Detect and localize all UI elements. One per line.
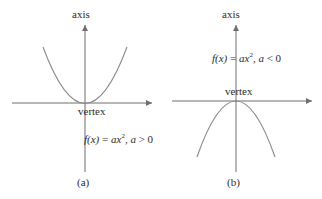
panel-a-graphic [0,0,161,199]
formula-function-a: f(x) [84,133,99,145]
formula-label-a: f(x) = ax2, a > 0 [84,134,153,145]
axis-label-a: axis [72,9,90,20]
axis-label-b: axis [222,9,240,20]
vertex-label-a: vertex [78,106,105,117]
panel-a: axis vertex f(x) = ax2, a > 0 (a) [0,0,161,199]
formula-function-b: f(x) [212,52,227,64]
panel-b-graphic [161,0,322,199]
formula-condition-value-b: 0 [276,52,282,64]
formula-label-b: f(x) = ax2, a < 0 [212,53,281,64]
parabola-figure: axis vertex f(x) = ax2, a > 0 (a) axis [0,0,322,199]
caption-a: (a) [77,177,89,188]
formula-condition-value-a: 0 [148,133,154,145]
panel-b: axis vertex f(x) = ax2, a < 0 (b) [161,0,322,199]
caption-b: (b) [227,177,240,188]
vertex-label-b: vertex [225,86,252,97]
